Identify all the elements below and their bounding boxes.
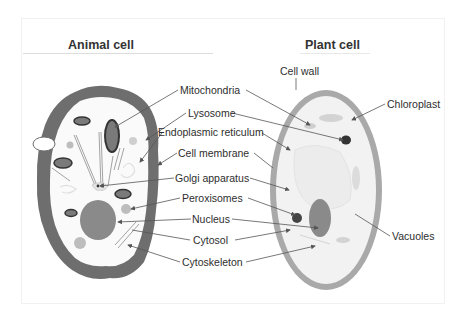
animal-cell bbox=[33, 86, 159, 279]
lysosome bbox=[67, 142, 74, 149]
cell-diagram: Mitochondria Lysosome Endoplasmic reticu… bbox=[0, 0, 463, 323]
label-peroxisomes: Peroxisomes bbox=[182, 192, 243, 204]
peroxisome bbox=[74, 237, 86, 249]
peroxisome bbox=[121, 204, 131, 214]
label-cytosol: Cytosol bbox=[193, 234, 228, 246]
nucleus bbox=[80, 200, 116, 240]
label-nucleus: Nucleus bbox=[192, 213, 230, 225]
animal-vesicle-bulge bbox=[33, 137, 55, 151]
mitochondrion bbox=[304, 123, 316, 129]
mitochondrion bbox=[115, 190, 131, 199]
label-endoplasmic-reticulum: Endoplasmic reticulum bbox=[158, 126, 264, 138]
mitochondrion bbox=[74, 117, 90, 125]
chloroplast bbox=[336, 237, 350, 243]
animal-cytoplasm bbox=[50, 97, 149, 266]
mitochondrion bbox=[65, 210, 77, 217]
label-chloroplast: Chloroplast bbox=[387, 98, 440, 110]
label-cell-membrane: Cell membrane bbox=[178, 147, 249, 159]
chloroplast bbox=[352, 166, 360, 190]
label-vacuoles: Vacuoles bbox=[392, 230, 434, 242]
chloroplast bbox=[319, 114, 343, 122]
label-cytoskeleton: Cytoskeleton bbox=[182, 256, 243, 268]
plant-cell bbox=[270, 90, 382, 290]
mitochondrion bbox=[54, 158, 72, 168]
label-golgi-apparatus: Golgi apparatus bbox=[175, 172, 249, 184]
label-cell-wall: Cell wall bbox=[280, 65, 319, 77]
label-mitochondria: Mitochondria bbox=[180, 84, 240, 96]
label-lysosome: Lysosome bbox=[188, 107, 236, 119]
lysosome bbox=[129, 137, 137, 145]
nucleus bbox=[309, 199, 331, 237]
mitochondrion bbox=[105, 120, 119, 152]
